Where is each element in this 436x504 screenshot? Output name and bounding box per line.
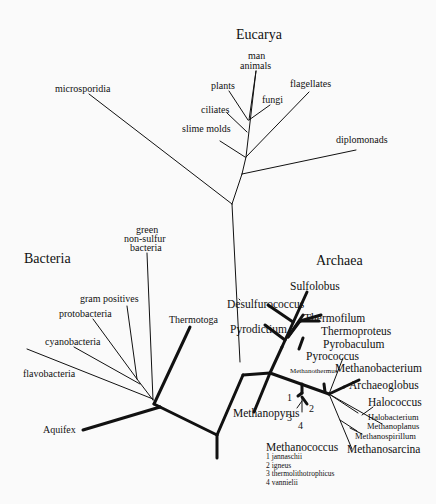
label-aquifex: Aquifex bbox=[43, 425, 76, 435]
label-methanospirillum: Methanospirillum bbox=[355, 432, 416, 441]
label-methanosarcina: Methanosarcina bbox=[347, 444, 420, 456]
label-thermofilum: Thermofilum bbox=[304, 313, 365, 325]
label-archaeoglobus: Archaeoglobus bbox=[349, 380, 419, 392]
label-slime-molds: slime molds bbox=[182, 124, 231, 134]
label-gram-positives: gram positives bbox=[80, 294, 139, 304]
label-diplomonads: diplomonads bbox=[336, 135, 388, 145]
label-fungi: fungi bbox=[262, 95, 283, 105]
label-flavobacteria: flavobacteria bbox=[23, 369, 75, 379]
label-microsporidia: microsporidia bbox=[55, 84, 111, 94]
label-animals: animals bbox=[240, 61, 271, 71]
label-methanococcus-3: 3 bbox=[287, 413, 292, 423]
phylogenetic-tree-diagram: Eucarya Bacteria Archaea man animals pla… bbox=[0, 0, 436, 504]
label-desulfurococcus: Desulfurococcus bbox=[227, 299, 304, 311]
label-thermotoga: Thermotoga bbox=[169, 315, 218, 325]
label-methanococcus-4: 4 bbox=[298, 421, 303, 431]
label-sulfolobus: Sulfolobus bbox=[290, 281, 340, 293]
label-protobacteria: protobacteria bbox=[59, 309, 112, 319]
label-methanococcus-2: 2 bbox=[309, 404, 314, 414]
label-halococcus: Halococcus bbox=[368, 397, 422, 409]
label-methanothermus: Methanothermus bbox=[290, 368, 337, 375]
label-flagellates: flagellates bbox=[290, 79, 331, 89]
label-cyanobacteria: cyanobacteria bbox=[45, 337, 101, 347]
label-methanoplanus: Methanoplanus bbox=[367, 422, 419, 431]
label-green-nonsulfur-line3: bacteria bbox=[130, 243, 162, 253]
label-pyrobaculum: Pyrobaculum bbox=[323, 339, 384, 351]
methanococcus-legend: Methanococcus 1 jannaschii 2 igneus 3 th… bbox=[266, 441, 338, 487]
label-methanobacterium: Methanobacterium bbox=[335, 363, 422, 375]
domain-label-bacteria: Bacteria bbox=[24, 252, 71, 266]
label-thermoproteus: Thermoproteus bbox=[321, 326, 391, 338]
bacteria-thick-branches bbox=[83, 327, 270, 458]
domain-label-archaea: Archaea bbox=[316, 254, 363, 268]
label-pyrococcus: Pyrococcus bbox=[306, 351, 359, 363]
label-pyrodictium: Pyrodictium bbox=[230, 324, 287, 336]
label-ciliates: ciliates bbox=[201, 105, 229, 115]
domain-label-eucarya: Eucarya bbox=[236, 28, 282, 42]
legend-item: 4 vannielii bbox=[266, 479, 338, 488]
label-plants: plants bbox=[211, 81, 235, 91]
label-methanococcus-1: 1 bbox=[287, 393, 292, 403]
